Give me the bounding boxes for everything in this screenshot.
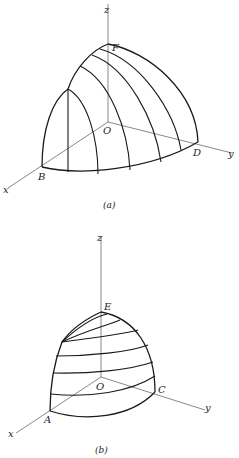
edge-b-to-d [42,142,198,171]
point-label-f: F [111,42,120,53]
point-label-b: B [37,171,45,182]
diagram-canvas: z F O D y B x (a) z E O C y A x (b) [0,0,239,458]
y-label-b: y [204,402,211,413]
point-label-a: A [43,414,51,425]
x-label-b: x [8,428,14,439]
caption-a: (a) [103,200,116,210]
edge-a-to-c [50,392,155,417]
latitude-1 [62,314,107,342]
latitude-5 [53,362,153,373]
meridian-3 [80,66,130,170]
origin-label-b: O [96,381,104,392]
point-label-c: C [158,384,166,395]
meridian-4 [92,55,161,162]
x-axis-b [16,377,101,433]
point-label-d: D [192,147,201,158]
figure-a: z F O D y B x (a) [3,4,234,210]
x-label-a: x [3,184,9,195]
y-label-a: y [227,148,234,159]
meridian-5 [100,49,181,150]
y-axis-a [108,122,232,153]
latitude-2 [62,320,120,342]
z-label-b: z [96,232,103,243]
edge-peak-to-b [42,89,68,167]
edge-f-to-peak [68,44,108,89]
point-label-e: E [103,301,112,312]
figure-b: z E O C y A x (b) [8,232,211,455]
origin-label-a: O [103,125,111,136]
edge-cusp-to-a [50,342,62,411]
latitude-4 [56,345,148,356]
meridian-2 [68,89,98,174]
caption-b: (b) [95,445,108,455]
z-label-a: z [103,4,110,15]
